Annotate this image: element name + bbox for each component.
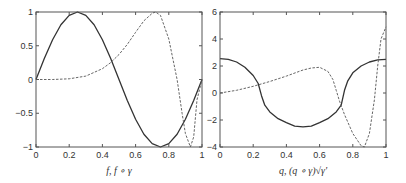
y-tick-label: 4 [212, 34, 217, 44]
x-tick-label: 0 [33, 150, 38, 160]
y-tick-label: 0 [212, 88, 217, 98]
y-tick-label: 2 [212, 61, 217, 71]
series-solid-line [220, 59, 386, 127]
x-tick-label: 0.2 [247, 150, 260, 160]
x-tick-label: 1 [199, 150, 204, 160]
x-tick-label: 0.8 [163, 150, 176, 160]
x-axis-label: f, f ∘ γ [106, 165, 133, 176]
y-tick-label: 1 [28, 7, 33, 17]
y-tick-label: −4 [207, 142, 217, 152]
y-tick-label: 0 [28, 75, 33, 85]
y-tick-label: −0.5 [15, 108, 33, 118]
y-tick-label: 0.5 [20, 41, 33, 51]
series-dashed-line [220, 27, 386, 147]
x-tick-label: 1 [383, 150, 388, 160]
x-tick-label: 0.6 [313, 150, 326, 160]
chart-figure: 00.20.40.60.81−1−0.500.51f, f ∘ γ00.20.4… [0, 0, 406, 183]
x-tick-label: 0 [217, 150, 222, 160]
y-tick-label: −2 [207, 115, 217, 125]
x-tick-label: 0.4 [96, 150, 109, 160]
x-tick-label: 0.2 [63, 150, 76, 160]
y-tick-label: 6 [212, 7, 217, 17]
plot-2: 00.20.40.60.81−4−20246q, (q ∘ γ)√γ' [207, 7, 389, 177]
x-tick-label: 0.6 [129, 150, 142, 160]
y-tick-label: −1 [23, 142, 33, 152]
x-tick-label: 0.8 [347, 150, 360, 160]
x-axis-label: q, (q ∘ γ)√γ' [279, 165, 328, 177]
x-tick-label: 0.4 [280, 150, 293, 160]
plot-1: 00.20.40.60.81−1−0.500.51f, f ∘ γ [15, 7, 204, 176]
